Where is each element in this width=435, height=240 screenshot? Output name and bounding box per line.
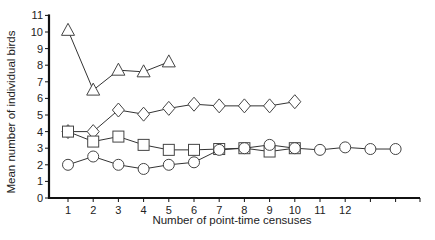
square-marker	[63, 126, 74, 137]
figure-caption-clipped	[4, 233, 424, 240]
square-marker	[113, 131, 124, 142]
y-tick-label: 6	[37, 92, 43, 104]
diamond-marker	[112, 103, 124, 117]
series-line	[68, 30, 169, 90]
y-tick-label: 0	[37, 192, 43, 204]
circle-marker	[138, 163, 149, 174]
triangle-marker	[112, 63, 125, 75]
x-tick-label: 12	[339, 204, 351, 216]
x-tick-label: 4	[141, 204, 147, 216]
diamond-marker	[188, 97, 200, 111]
diamond-marker	[138, 107, 150, 121]
x-tick-label: 2	[90, 204, 96, 216]
circle-marker	[289, 143, 300, 154]
x-tick-label: 3	[115, 204, 121, 216]
triangle-marker	[162, 55, 175, 67]
circle-marker	[214, 144, 225, 155]
square-marker	[189, 144, 200, 155]
series-triangle	[62, 23, 176, 95]
y-tick-label: 9	[37, 43, 43, 55]
y-tick-label: 11	[32, 9, 43, 21]
y-tick-label: 5	[37, 109, 43, 121]
circle-marker	[63, 159, 74, 170]
diamond-marker	[163, 101, 175, 115]
square-marker	[138, 139, 149, 150]
circle-marker	[264, 139, 275, 150]
y-tick-label: 3	[37, 142, 43, 154]
y-tick-label: 1	[37, 175, 43, 187]
line-chart: 01234567891011 123456789101112 Mean numb…	[0, 0, 435, 240]
diamond-marker	[289, 95, 301, 109]
y-axis-title: Mean number of individual birds	[5, 30, 17, 193]
y-axis: 01234567891011	[31, 9, 49, 204]
x-tick-label: 11	[314, 204, 325, 216]
circle-marker	[113, 159, 124, 170]
triangle-marker	[62, 23, 75, 35]
y-tick-label: 2	[37, 159, 43, 171]
circle-marker	[390, 144, 401, 155]
circle-marker	[239, 143, 250, 154]
circle-marker	[189, 157, 200, 168]
y-tick-label: 10	[31, 26, 43, 38]
y-tick-label: 8	[37, 59, 43, 71]
circle-marker	[315, 144, 326, 155]
diamond-marker	[238, 99, 250, 113]
series-diamond	[62, 95, 301, 139]
x-tick-label: 1	[65, 204, 71, 216]
triangle-marker	[87, 83, 100, 95]
series-line	[68, 132, 295, 152]
diamond-marker	[264, 99, 276, 113]
triangle-marker	[137, 65, 150, 77]
x-axis-title: Number of point-time censuses	[152, 214, 311, 226]
circle-marker	[365, 144, 376, 155]
diamond-marker	[213, 99, 225, 113]
y-tick-label: 4	[37, 126, 43, 138]
square-marker	[163, 144, 174, 155]
y-tick-label: 7	[37, 76, 43, 88]
square-marker	[88, 136, 99, 147]
series-line	[68, 102, 295, 132]
circle-marker	[163, 159, 174, 170]
series-layer	[62, 23, 402, 174]
series-circle	[63, 139, 402, 174]
circle-marker	[88, 151, 99, 162]
circle-marker	[340, 142, 351, 153]
